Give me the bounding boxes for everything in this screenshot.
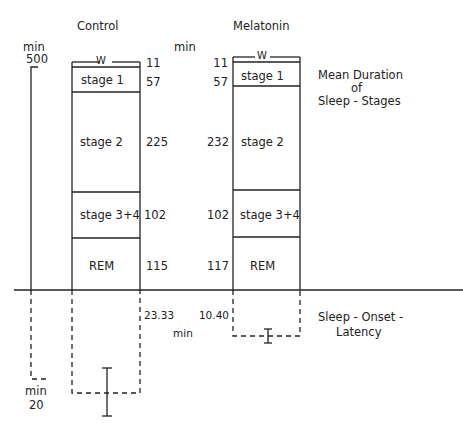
control-stage2-value: 225 [146, 135, 168, 149]
melatonin-rem-label: REM [250, 259, 275, 273]
latency-title-line-2: Latency [336, 325, 382, 339]
scale-value-bottom: 20 [29, 398, 44, 412]
control-w-value: 11 [146, 56, 161, 70]
melatonin-stage1-value: 57 [213, 75, 228, 89]
scale-bar-500 [31, 67, 38, 290]
control-stage34-value: 102 [144, 208, 166, 222]
control-stage34-label: stage 3+4 [80, 208, 140, 222]
latency-title-line-1: Sleep - Onset - [318, 310, 403, 324]
control-w-label: W [96, 55, 106, 66]
scale-value-top: 500 [26, 52, 48, 66]
control-stage1-value: 57 [146, 75, 161, 89]
control-error-bar [102, 368, 112, 416]
control-label: Control [77, 19, 119, 33]
control-stage1-label: stage 1 [81, 73, 124, 87]
melatonin-bar [233, 57, 300, 290]
melatonin-stage2-label: stage 2 [241, 135, 284, 149]
scale-bar-20 [31, 290, 50, 379]
melatonin-w-value: 11 [213, 56, 228, 70]
sleep-stage-chart: Control Melatonin min 500 min W stage 1 … [0, 0, 463, 438]
melatonin-stage34-value: 102 [207, 208, 229, 222]
latency-dashed [31, 290, 300, 393]
melatonin-rem-value: 117 [207, 259, 229, 273]
title-line-2: of [351, 81, 363, 95]
melatonin-label: Melatonin [233, 19, 290, 33]
latency-unit-label: min [173, 327, 193, 339]
melatonin-latency-value: 10.40 [199, 309, 229, 321]
title-line-1: Mean Duration [318, 68, 403, 82]
melatonin-stage1-label: stage 1 [241, 69, 284, 83]
control-bar [72, 62, 140, 290]
melatonin-stage2-value: 232 [207, 135, 229, 149]
control-rem-value: 115 [146, 259, 168, 273]
scale-unit-bottom: min [25, 384, 47, 398]
control-rem-label: REM [89, 259, 114, 273]
control-latency-value: 23.33 [144, 309, 174, 321]
middle-unit-label: min [174, 40, 196, 54]
control-latency-box [72, 290, 140, 393]
title-line-3: Sleep - Stages [318, 94, 401, 108]
melatonin-w-label: W [257, 50, 267, 61]
control-stage2-label: stage 2 [80, 135, 123, 149]
melatonin-stage34-label: stage 3+4 [240, 208, 300, 222]
